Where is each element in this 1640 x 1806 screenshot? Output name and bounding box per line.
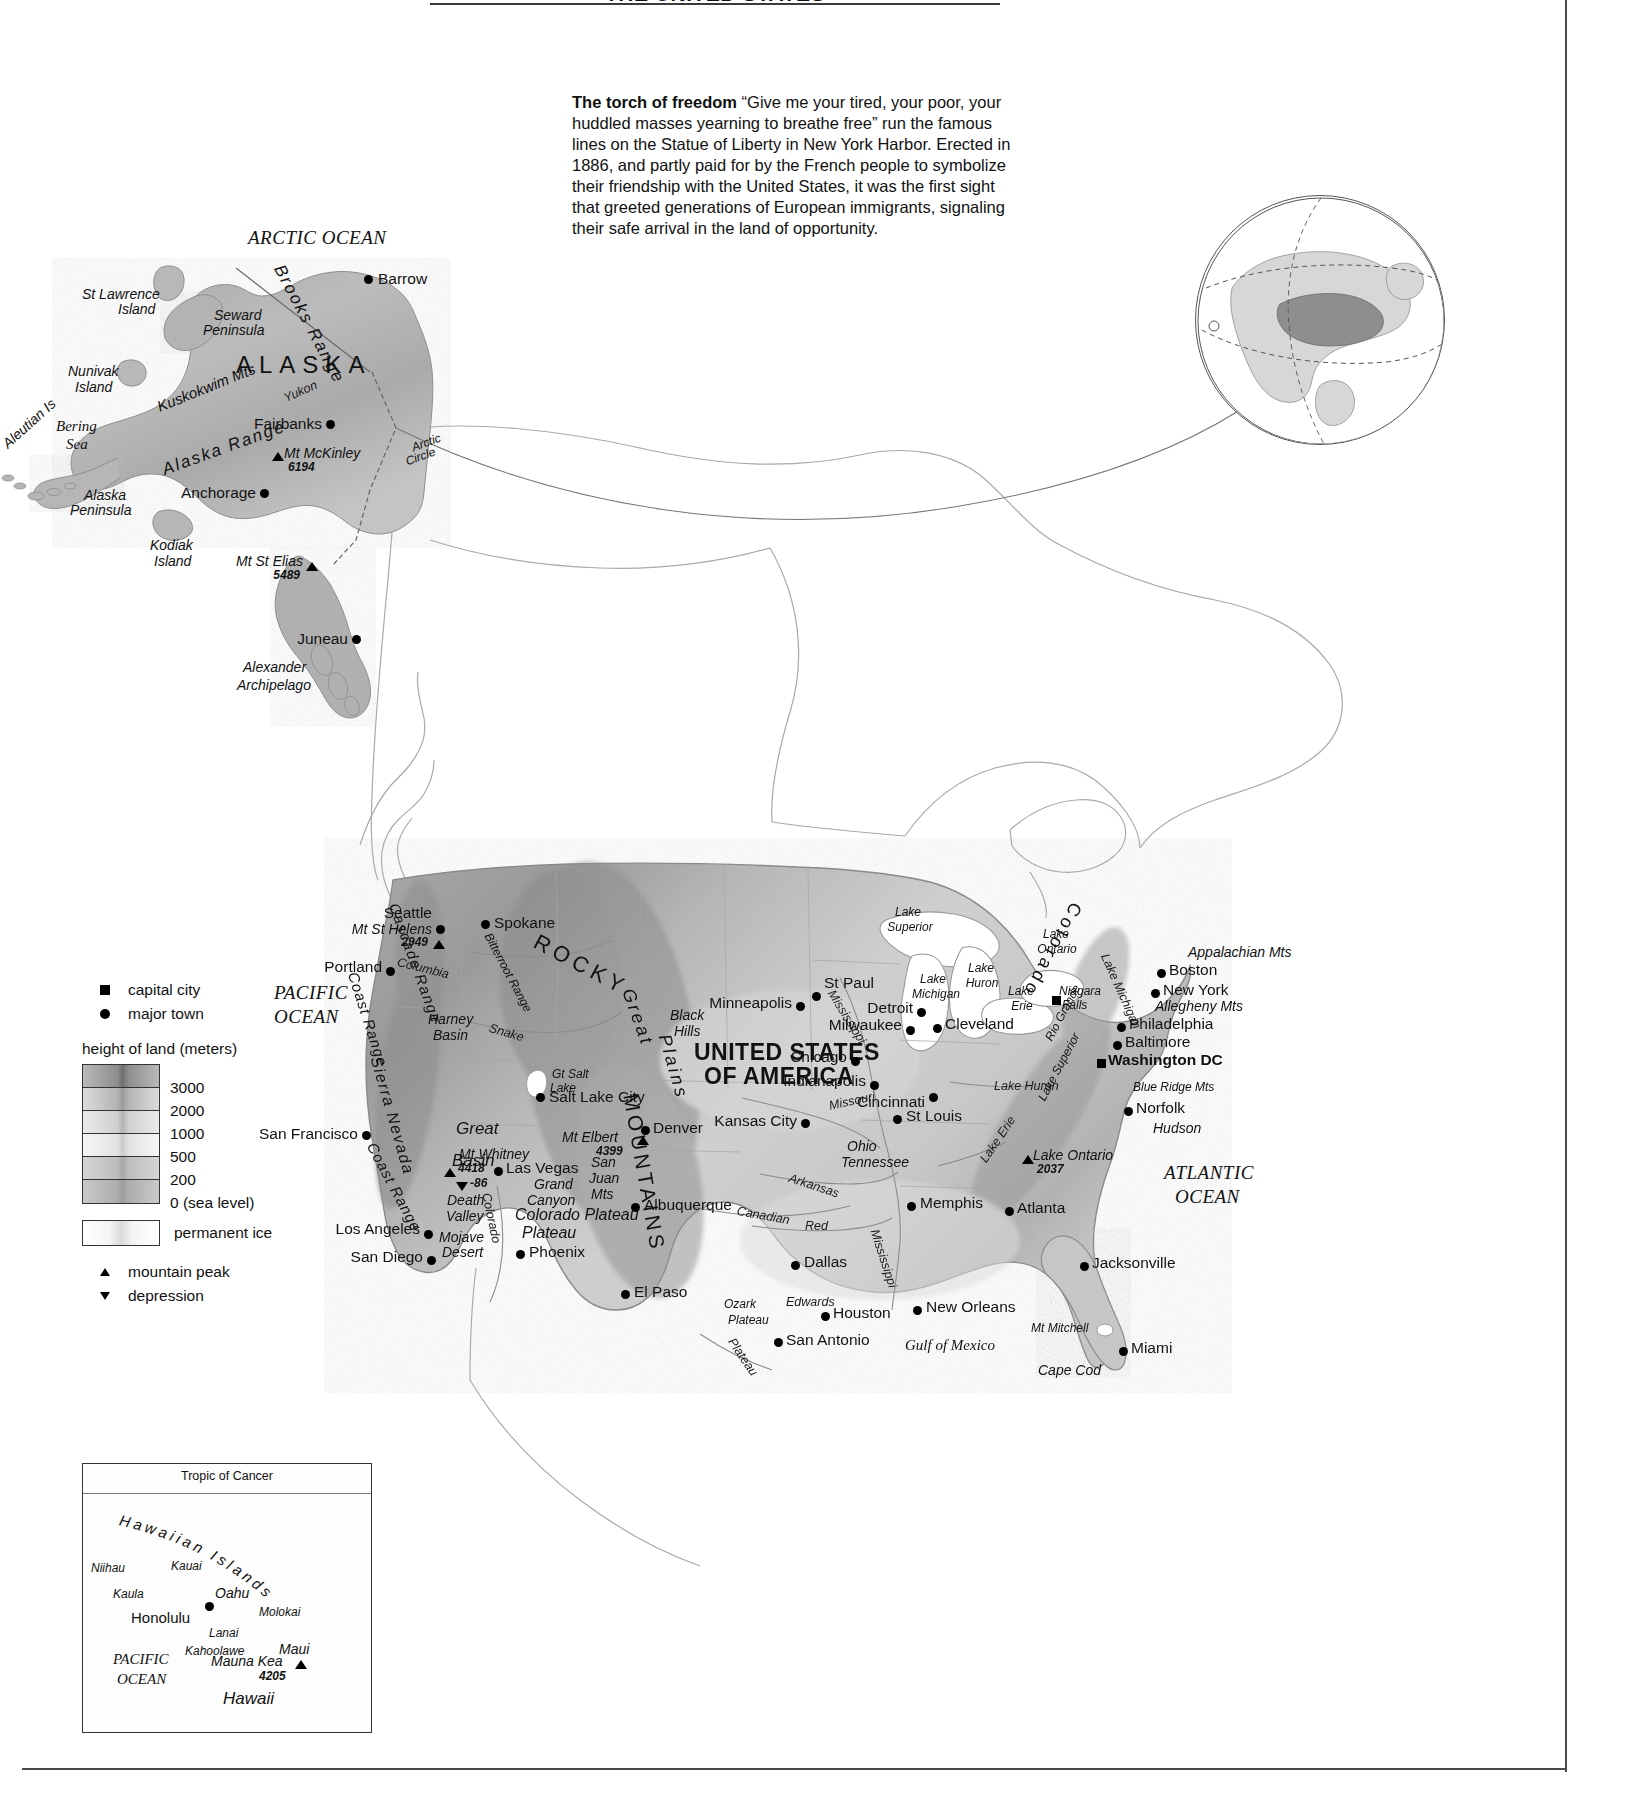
city-label-spokane: Spokane (494, 915, 555, 931)
town-dot-los-angeles (424, 1230, 433, 1239)
feature-label-grand-canyon-1: Grand (534, 1177, 573, 1192)
peak-elev-mt-mckinley: 6194 (288, 461, 315, 474)
feature-label-ozark-1: Ohio (847, 1139, 877, 1154)
town-dot-norfolk (1124, 1107, 1133, 1116)
state-label-alaska: ALASKA (236, 352, 371, 377)
town-dot-phoenix (516, 1250, 525, 1259)
island-label-kaula: Kaula (113, 1588, 144, 1601)
globe-inset (1195, 195, 1445, 445)
city-label-norfolk: Norfolk (1136, 1100, 1185, 1116)
town-dot-kansas-city (801, 1119, 810, 1128)
town-dot-fairbanks (326, 420, 335, 429)
city-label-san-francisco: San Francisco (259, 1126, 358, 1142)
legend-row-ice: permanent ice (82, 1220, 332, 1246)
peak-icon-mt-st-helens (433, 940, 445, 949)
city-label-chicago: Chicago (790, 1049, 847, 1065)
elev-label-4: 200 (170, 1171, 196, 1189)
ocean-label-arctic: ARCTIC OCEAN (248, 228, 386, 248)
peak-label-mt-elbert: Mt Elbert (562, 1130, 618, 1145)
lake-label-huron-2: Huron (966, 977, 999, 990)
lake-label-erie-2: Erie (1011, 1000, 1032, 1013)
city-label-kansas-city: Kansas City (714, 1113, 797, 1129)
island-label-lanai: Lanai (209, 1627, 238, 1640)
feature-label-san-juan-mts-1: San (591, 1155, 616, 1170)
elevation-bars (82, 1064, 160, 1204)
capital-city-icon (82, 985, 128, 995)
town-dot-st-paul (812, 992, 821, 1001)
town-dot-las-vegas (494, 1167, 503, 1176)
ocean-label-pacific-2: OCEAN (274, 1007, 339, 1027)
city-label-juneau: Juneau (297, 631, 348, 647)
town-dot-chicago (851, 1057, 860, 1066)
city-label-las-vegas-1: Las Vegas (506, 1160, 578, 1176)
city-label-minneapolis: Minneapolis (709, 995, 792, 1011)
sea-label-gulf-of-mexico: Gulf of Mexico (905, 1338, 995, 1354)
elev-label-1: 2000 (170, 1102, 204, 1120)
island-label-hawaii: Hawaii (223, 1690, 274, 1708)
feature-label-alaska-peninsula-2: Peninsula (70, 503, 132, 518)
capital-label-washington-dc: Washington DC (1108, 1052, 1223, 1068)
sea-label-bering-1: Bering (56, 419, 97, 435)
legend-capital-label: capital city (128, 981, 200, 999)
town-dot-milwaukee (906, 1026, 915, 1035)
elev-label-5: 0 (sea level) (170, 1194, 254, 1212)
elev-label-3: 500 (170, 1148, 196, 1166)
town-dot-san-antonio (774, 1338, 783, 1347)
city-label-cleveland: Cleveland (945, 1016, 1014, 1032)
town-dot-baltimore (1113, 1041, 1122, 1050)
town-dot-el-paso (621, 1290, 630, 1299)
town-dot-new-york (1151, 989, 1160, 998)
feature-label-colorado-plateau-1: Colorado Plateau (515, 1207, 639, 1224)
legend-row-peak: mountain peak (82, 1260, 332, 1284)
legend-row-depression: depression (82, 1284, 332, 1308)
map-legend: capital city major town height of land (… (82, 978, 332, 1308)
feature-label-seward-2: Peninsula (203, 323, 265, 338)
town-dot-anchorage (260, 489, 269, 498)
feature-label-st-lawrence-island: Island (118, 302, 155, 317)
lake-label-huron-1: Lake (968, 962, 994, 975)
feature-label-san-juan-mts-2: Juan (589, 1171, 619, 1186)
city-label-houston: Houston (833, 1305, 891, 1321)
city-label-phoenix: Phoenix (529, 1244, 585, 1260)
feature-label-st-lawrence: St Lawrence (82, 287, 160, 302)
hawaii-ocean-label-2: OCEAN (117, 1672, 166, 1688)
feature-label-mojave-1: Mojave (439, 1230, 484, 1245)
town-dot-detroit (917, 1008, 926, 1017)
feature-label-nunivak: Nunivak (68, 364, 119, 379)
city-label-el-paso: El Paso (634, 1284, 687, 1300)
city-label-jacksonville: Jacksonville (1092, 1255, 1176, 1271)
town-dot-memphis (907, 1202, 916, 1211)
city-label-st-paul: St Paul (824, 975, 874, 991)
feature-label-long-island: Allegheny Mts (1155, 999, 1243, 1014)
peak-icon-mt-st-elias (306, 562, 318, 571)
lake-label-michigan-2: Michigan (912, 988, 960, 1001)
city-label-milwaukee: Milwaukee (829, 1017, 902, 1033)
feature-label-alexander-1: Alexander (243, 660, 306, 675)
feature-label-great-basin-1: Great (456, 1120, 499, 1138)
town-dot-san-diego (427, 1256, 436, 1265)
city-label-san-diego: San Diego (351, 1249, 423, 1265)
feature-label-chesapeake-bay: Blue Ridge Mts (1133, 1081, 1214, 1094)
mauna-kea-peak-icon (295, 1660, 307, 1669)
town-dot-minneapolis (796, 1002, 805, 1011)
feature-label-death-valley-2: Valley (446, 1209, 484, 1224)
town-dot-houston (821, 1312, 830, 1321)
river-label-colorado-tx: Edwards (786, 1296, 835, 1309)
city-label-barrow: Barrow (378, 271, 427, 287)
intro-body: “Give me your tired, your poor, your hud… (572, 93, 1010, 237)
town-dot-atlanta (1005, 1207, 1014, 1216)
legend-depression-label: depression (128, 1287, 204, 1305)
feature-label-l-okeechobee: Mt Mitchell (1031, 1322, 1088, 1335)
feature-label-cape-sable: Cape Cod (1038, 1363, 1101, 1378)
town-dot-dallas (791, 1261, 800, 1270)
city-label-fairbanks: Fairbanks (254, 416, 322, 432)
feature-label-ozark-2: Tennessee (841, 1155, 909, 1170)
feature-label-harney-1: Harney (428, 1012, 473, 1027)
city-label-honolulu: Honolulu (131, 1610, 190, 1626)
lake-label-superior-2: Superior (887, 921, 932, 934)
lake-label-michigan-1: Lake (920, 973, 946, 986)
depression-elev-death-valley: -86 (470, 1177, 487, 1190)
town-dot-cincinnati (929, 1093, 938, 1102)
island-label-niihau: Niihau (91, 1562, 125, 1575)
peak-icon-mt-mckinley (272, 452, 284, 461)
